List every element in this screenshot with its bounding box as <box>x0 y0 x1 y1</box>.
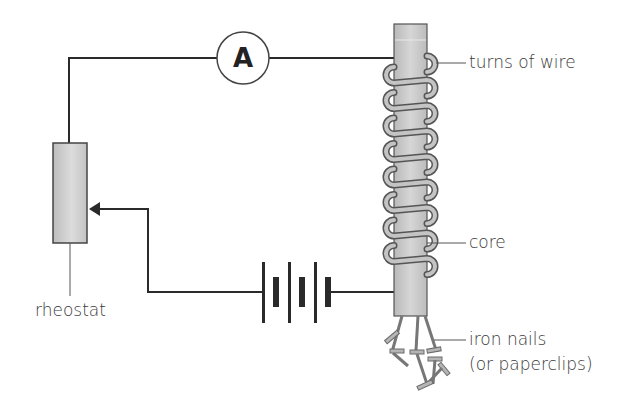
battery <box>262 262 331 323</box>
ammeter-symbol: A <box>217 43 269 73</box>
label-rheostat: rheostat <box>35 300 106 320</box>
label-paperclips: (or paperclips) <box>469 354 593 374</box>
label-iron-nails: iron nails <box>469 329 546 349</box>
electromagnet-core <box>394 24 427 316</box>
slider-arrow-icon <box>89 202 100 216</box>
label-turns-of-wire: turns of wire <box>469 52 576 72</box>
iron-nails <box>385 316 450 390</box>
label-core: core <box>469 232 506 252</box>
rheostat-slider-wire <box>96 209 263 292</box>
rheostat <box>53 143 87 296</box>
